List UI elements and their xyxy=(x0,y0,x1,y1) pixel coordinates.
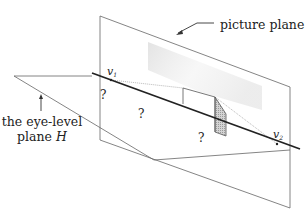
perspective-diagram: v1 v2 ? ? ? picture plane the eye-level … xyxy=(0,0,308,216)
picture-plane-arrow-icon xyxy=(178,23,214,33)
eye-level-label-line2: plane H xyxy=(17,129,68,144)
arrowhead-icon xyxy=(176,30,183,35)
arrowhead-icon xyxy=(39,94,43,99)
picture-plane-label: picture plane xyxy=(220,17,304,32)
picture-plane xyxy=(100,16,290,208)
question-mark-3: ? xyxy=(198,131,204,145)
v1-point xyxy=(110,79,112,81)
question-mark-2: ? xyxy=(138,107,144,121)
question-mark-1: ? xyxy=(100,88,106,102)
eye-level-label-line1: the eye-level xyxy=(2,114,82,129)
v2-point xyxy=(276,143,278,145)
